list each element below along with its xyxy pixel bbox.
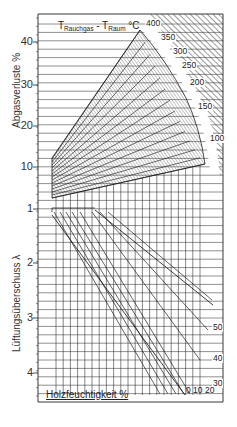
temperature-curve-label: 300 xyxy=(172,47,188,56)
temperature-curve-label: 250 xyxy=(181,61,197,70)
tick-label: 4 xyxy=(19,366,33,378)
wood-moisture-value: 20 xyxy=(204,386,215,395)
tick-label: 30 xyxy=(19,78,33,90)
temperature-curve-label: 100 xyxy=(209,134,225,143)
tick-label: 3 xyxy=(19,311,33,323)
temperature-curve-label: 350 xyxy=(160,33,176,42)
tick-label: 1 xyxy=(19,202,33,214)
upper-axis-label: Abgasverluste % xyxy=(11,53,22,128)
lower-axis-label: Lüftungsüberschuss λ xyxy=(11,255,22,352)
co2-label: 40 xyxy=(212,354,223,363)
tick-label: 10 xyxy=(19,160,33,172)
temperature-curve-label: 150 xyxy=(197,102,213,111)
chart-title: TRauchgas - TRaum °C xyxy=(58,20,140,32)
tick-label: 20 xyxy=(19,119,33,131)
wood-moisture-label: Holzfeuchtigkeit % xyxy=(46,389,128,400)
wood-moisture-value: 0 xyxy=(185,386,192,395)
tick-label: 40 xyxy=(19,35,33,47)
wood-moisture-value: 10 xyxy=(192,386,203,395)
co2-label: 50 xyxy=(212,323,223,332)
temperature-curve-label: 400 xyxy=(145,19,161,28)
tick-label: 2 xyxy=(19,256,33,268)
nomogram-chart xyxy=(0,0,237,427)
temperature-curve-label: 200 xyxy=(189,78,205,87)
